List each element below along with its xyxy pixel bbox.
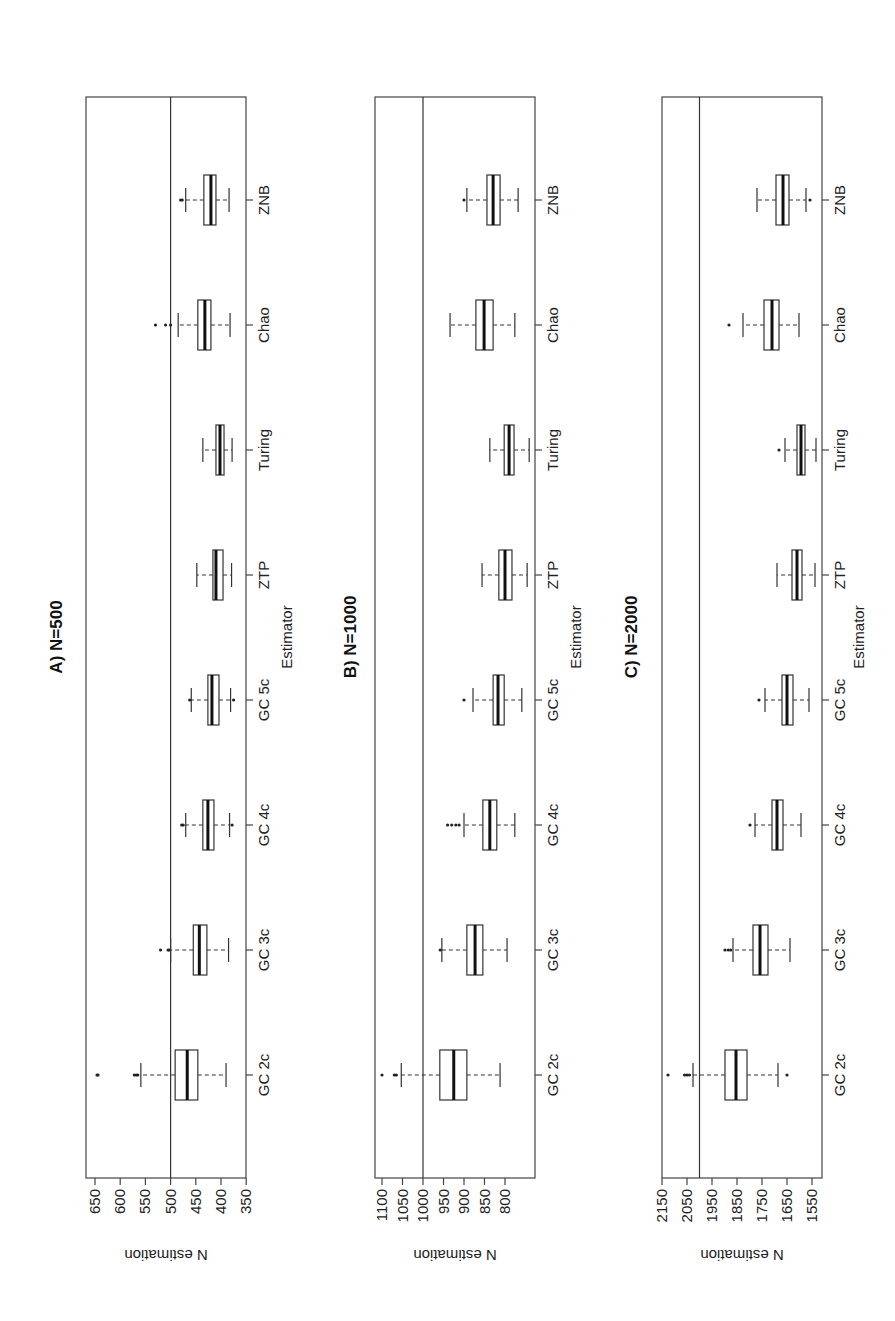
category-label: Turing xyxy=(255,429,272,471)
value-tick-label: 1050 xyxy=(394,1189,411,1222)
outlier-point xyxy=(182,823,185,826)
box-gc-4c xyxy=(446,800,515,850)
outlier-point xyxy=(154,323,157,326)
outlier-point xyxy=(729,948,732,951)
category-label: GC 4c xyxy=(255,803,272,846)
outlier-point xyxy=(808,198,811,201)
category-label: ZTP xyxy=(255,561,272,589)
figure-canvas: A) N=500350400450500550600650N estimatio… xyxy=(0,0,895,1321)
category-label: Turing xyxy=(831,429,848,471)
outlier-point xyxy=(167,948,170,951)
category-label: GC 4c xyxy=(544,803,561,846)
category-label: GC 4c xyxy=(831,803,848,846)
outlier-point xyxy=(666,1073,669,1076)
outlier-point xyxy=(446,823,449,826)
value-tick-label: 1100 xyxy=(373,1189,390,1221)
value-tick-label: 900 xyxy=(455,1189,472,1214)
box-turing xyxy=(777,425,816,475)
value-tick-label: 650 xyxy=(86,1189,103,1214)
category-label: GC 5c xyxy=(544,678,561,721)
box-gc-5c xyxy=(462,675,521,725)
box-chao xyxy=(727,300,799,350)
value-axis-label: N estimation xyxy=(413,1247,496,1264)
category-label: Chao xyxy=(831,307,848,343)
category-label: GC 3c xyxy=(831,928,848,971)
plot-frame xyxy=(86,97,246,1178)
category-axis: GC 2cGC 3cGC 4cGC 5cZTPTuringChaoZNB xyxy=(822,185,848,1096)
value-tick-label: 1550 xyxy=(803,1189,820,1222)
outlier-point xyxy=(439,948,442,951)
category-label: ZNB xyxy=(831,185,848,215)
value-tick-label: 1950 xyxy=(703,1189,720,1222)
box-chao xyxy=(450,300,515,350)
value-tick-label: 1850 xyxy=(728,1189,745,1222)
outlier-point xyxy=(164,323,167,326)
outlier-point xyxy=(232,698,235,701)
outlier-point xyxy=(454,823,457,826)
value-tick-label: 400 xyxy=(212,1189,229,1214)
outlier-point xyxy=(727,323,730,326)
panel-a: A) N=500350400450500550600650N estimatio… xyxy=(47,97,295,1264)
outlier-point xyxy=(757,698,760,701)
box-znb xyxy=(462,175,518,225)
value-tick-label: 1650 xyxy=(778,1189,795,1222)
outlier-point xyxy=(450,823,453,826)
category-axis-label: Estimator xyxy=(850,605,867,668)
outlier-point xyxy=(159,948,162,951)
value-tick-label: 1750 xyxy=(753,1189,770,1222)
box-turing xyxy=(203,425,232,475)
value-tick-label: 2050 xyxy=(678,1189,695,1222)
value-tick-label: 950 xyxy=(435,1189,452,1214)
panel-title: B) N=1000 xyxy=(341,596,360,679)
box-znb xyxy=(757,175,812,225)
category-label: GC 3c xyxy=(255,928,272,971)
box-gc-4c xyxy=(748,800,801,850)
category-label: Chao xyxy=(255,307,272,343)
outlier-point xyxy=(136,1073,139,1076)
box-gc-4c xyxy=(180,800,234,850)
value-tick-label: 800 xyxy=(496,1189,513,1214)
category-label: GC 2c xyxy=(544,1053,561,1096)
category-label: Chao xyxy=(544,307,561,343)
outlier-point xyxy=(169,323,172,326)
value-tick-label: 1000 xyxy=(414,1189,431,1222)
category-label: GC 2c xyxy=(831,1053,848,1096)
panel-title: C) N=2000 xyxy=(622,596,641,679)
outlier-point xyxy=(777,448,780,451)
outlier-point xyxy=(462,698,465,701)
box-gc-2c xyxy=(95,1050,226,1100)
category-label: ZNB xyxy=(255,185,272,215)
box-gc-3c xyxy=(723,925,790,975)
panel-b: B) N=1000800850900950100010501100N estim… xyxy=(341,97,584,1264)
category-label: GC 3c xyxy=(544,928,561,971)
value-tick-label: 350 xyxy=(237,1189,254,1214)
plot-frame xyxy=(662,97,822,1178)
box-gc-2c xyxy=(666,1050,788,1100)
outlier-point xyxy=(688,1073,691,1076)
category-label: ZNB xyxy=(544,185,561,215)
iqr-box xyxy=(213,550,223,600)
value-axis-label: N estimation xyxy=(124,1247,207,1264)
plot-frame xyxy=(375,97,535,1178)
category-label: ZTP xyxy=(831,561,848,589)
category-label: GC 5c xyxy=(831,678,848,721)
category-label: GC 5c xyxy=(255,678,272,721)
outlier-point xyxy=(462,198,465,201)
category-label: GC 2c xyxy=(255,1053,272,1096)
outlier-point xyxy=(188,698,191,701)
outlier-point xyxy=(748,823,751,826)
value-tick-label: 500 xyxy=(162,1189,179,1214)
panel-c: C) N=20001550165017501850195020502150N e… xyxy=(622,97,867,1264)
iqr-box xyxy=(208,675,219,725)
boxplot-figure: A) N=500350400450500550600650N estimatio… xyxy=(0,0,895,1321)
value-tick-label: 850 xyxy=(476,1189,493,1214)
box-chao xyxy=(154,300,230,350)
box-gc-5c xyxy=(188,675,235,725)
value-axis: 800850900950100010501100 xyxy=(373,1178,513,1222)
outlier-point xyxy=(457,823,460,826)
value-tick-label: 550 xyxy=(136,1189,153,1214)
box-gc-3c xyxy=(159,925,229,975)
value-tick-label: 2150 xyxy=(653,1189,670,1222)
category-axis-label: Estimator xyxy=(278,605,295,668)
outlier-point xyxy=(96,1073,99,1076)
